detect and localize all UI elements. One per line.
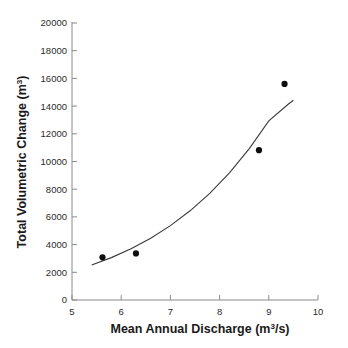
x-axis-title: Mean Annual Discharge (m3/s): [110, 322, 289, 336]
x-tick-label: 8: [217, 306, 222, 317]
y-axis-title: Total Volumetric Change (m3): [15, 76, 29, 249]
x-tick-label: 5: [69, 306, 74, 317]
y-tick-label: 2000: [46, 267, 67, 278]
data-point: [99, 254, 105, 260]
y-tick-label: 8000: [46, 184, 67, 195]
y-tick-label: 4000: [46, 239, 67, 250]
y-tick-label: 12000: [41, 128, 67, 139]
x-tick-label: 6: [119, 306, 124, 317]
y-axis-title-base: Total Volumetric Change (m: [15, 84, 29, 248]
x-tick-label: 7: [168, 306, 173, 317]
y-tick-label: 16000: [41, 73, 67, 84]
y-tick-label: 14000: [41, 101, 67, 112]
y-axis-title-tail: ): [15, 76, 29, 80]
figure-container: 0 2000 4000 6000 8000 10000 12000 14000 …: [0, 0, 348, 348]
y-tick-label: 20000: [41, 17, 67, 28]
scatter-chart: 0 2000 4000 6000 8000 10000 12000 14000 …: [0, 0, 348, 348]
y-tick-label: 0: [62, 294, 67, 305]
x-tick-label: 10: [313, 306, 324, 317]
data-point: [256, 147, 262, 153]
y-tick-label: 18000: [41, 45, 67, 56]
x-tick-label: 9: [266, 306, 271, 317]
data-point: [281, 81, 287, 87]
y-tick-label: 10000: [41, 156, 67, 167]
data-point: [133, 250, 139, 256]
y-tick-label: 6000: [46, 211, 67, 222]
x-axis-title-base: Mean Annual Discharge (m: [110, 322, 270, 336]
x-axis-title-tail: /s): [275, 322, 290, 336]
